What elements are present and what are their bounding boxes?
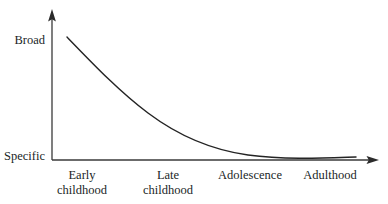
developmental-breadth-chart: Broad Specific Early childhood Late chil…	[0, 0, 388, 204]
x-axis-label-line1: Late	[157, 168, 179, 182]
x-axis-label-line2: childhood	[143, 183, 193, 198]
breadth-decay-curve	[67, 37, 356, 158]
y-axis-label-specific: Specific	[4, 150, 45, 163]
x-axis-label-line2: childhood	[57, 183, 107, 198]
x-axis-label-late-childhood: Late childhood	[143, 168, 193, 198]
x-axis-label-early-childhood: Early childhood	[57, 168, 107, 198]
x-axis-label-adulthood: Adulthood	[303, 168, 356, 183]
x-axis-label-line1: Adolescence	[218, 168, 282, 182]
x-axis-label-adolescence: Adolescence	[218, 168, 282, 183]
x-axis-label-line1: Early	[68, 168, 95, 182]
y-axis-label-broad: Broad	[14, 34, 45, 47]
x-axis-label-line1: Adulthood	[303, 168, 356, 182]
